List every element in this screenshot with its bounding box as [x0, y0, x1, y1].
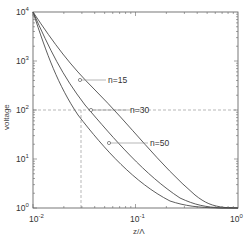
svg-text:103: 103	[16, 55, 29, 66]
svg-text:102: 102	[16, 104, 29, 115]
x-axis-label: z/Λ	[133, 227, 145, 236]
annotation-n30: n=30	[130, 105, 149, 115]
svg-text:101: 101	[16, 153, 29, 164]
x-tick-labels: 10-2 10-1 100	[29, 213, 243, 224]
svg-text:10-1: 10-1	[130, 213, 145, 224]
marker-n50	[107, 141, 110, 144]
annotation-n50: n=50	[150, 138, 169, 148]
svg-text:100: 100	[16, 202, 29, 213]
y-axis-label: voltage	[2, 104, 11, 130]
svg-text:100: 100	[230, 213, 243, 224]
svg-text:104: 104	[16, 6, 29, 17]
y-tick-labels: 100 101 102 103 104	[16, 6, 29, 213]
annotation-n15: n=15	[108, 75, 127, 85]
svg-text:10-2: 10-2	[29, 213, 44, 224]
log-log-chart: n=15 n=30 n=50 100 101 102 103 104 10-2 …	[0, 0, 249, 238]
marker-n15	[78, 78, 81, 81]
marker-n30	[89, 108, 92, 111]
